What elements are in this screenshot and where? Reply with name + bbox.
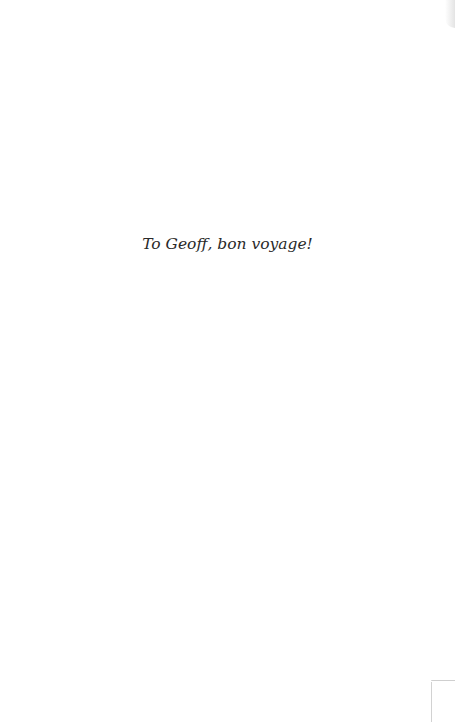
dedication-text: To Geoff, bon voyage! <box>0 234 455 254</box>
corner-line-vertical <box>431 682 432 722</box>
page-corner-mark-bottom <box>429 678 455 722</box>
page-edge-shadow-top <box>445 0 455 28</box>
corner-line-horizontal <box>431 680 455 681</box>
book-page: To Geoff, bon voyage! <box>0 0 455 722</box>
